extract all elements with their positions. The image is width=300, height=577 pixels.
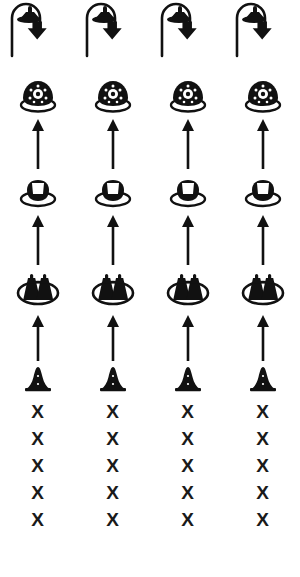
- up-arrow-icon: [255, 315, 271, 361]
- small-cone-icon: [246, 365, 280, 395]
- cell-stage4-col-3[interactable]: [150, 74, 225, 118]
- cell-stage3-col-1[interactable]: [0, 170, 75, 214]
- x-mark-icon: X: [256, 483, 269, 502]
- up-arrow-icon: [105, 315, 121, 361]
- up-arrow-icon: [30, 215, 46, 265]
- x-mark-icon: X: [31, 456, 44, 475]
- up-arrow-icon: [255, 215, 271, 265]
- cell-arrow2-col-3: [150, 214, 225, 266]
- x-mark-icon: X: [106, 429, 119, 448]
- x-mark-icon: X: [31, 510, 44, 529]
- x-mark-column-1: X X X X X: [0, 398, 75, 577]
- cup-on-oval-base-icon: [89, 173, 137, 211]
- cell-arrow2-col-2: [75, 214, 150, 266]
- cell-recycle-col-3[interactable]: [150, 0, 225, 58]
- cell-arrow3-col-3: [150, 118, 225, 170]
- x-mark-icon: X: [181, 429, 194, 448]
- cell-stage1-col-4[interactable]: [225, 362, 300, 398]
- cell-stage3-col-2[interactable]: [75, 170, 150, 214]
- small-cone-icon: [171, 365, 205, 395]
- x-mark-column-3: X X X X X: [150, 398, 225, 577]
- cell-stage2-col-4[interactable]: [225, 266, 300, 314]
- cell-arrow1-col-2: [75, 314, 150, 362]
- x-mark-column-2: X X X X X: [75, 398, 150, 577]
- textured-dome-on-base-icon: [164, 76, 212, 116]
- cell-recycle-col-4[interactable]: [225, 0, 300, 58]
- cell-stage1-col-2[interactable]: [75, 362, 150, 398]
- cell-stage2-col-2[interactable]: [75, 266, 150, 314]
- x-mark-icon: X: [106, 483, 119, 502]
- cup-on-oval-base-icon: [239, 173, 287, 211]
- cell-arrow1-col-1: [0, 314, 75, 362]
- cell-stage2-col-3[interactable]: [150, 266, 225, 314]
- textured-dome-on-base-icon: [239, 76, 287, 116]
- cell-stage2-col-1[interactable]: [0, 266, 75, 314]
- cell-stage3-col-4[interactable]: [225, 170, 300, 214]
- x-mark-icon: X: [256, 402, 269, 421]
- x-mark-icon: X: [31, 402, 44, 421]
- x-mark-icon: X: [106, 402, 119, 421]
- spacer-col-3: [150, 58, 225, 74]
- cell-recycle-col-2[interactable]: [75, 0, 150, 58]
- up-arrow-icon: [180, 119, 196, 169]
- up-arrow-icon: [105, 119, 121, 169]
- x-mark-icon: X: [181, 402, 194, 421]
- cup-on-oval-base-icon: [164, 173, 212, 211]
- x-mark-icon: X: [31, 483, 44, 502]
- cell-arrow2-col-1: [0, 214, 75, 266]
- dome-with-recycle-loop-arrow-icon: [232, 0, 294, 58]
- spacer-col-4: [225, 58, 300, 74]
- dome-with-recycle-loop-arrow-icon: [7, 0, 69, 58]
- x-mark-icon: X: [181, 510, 194, 529]
- cell-recycle-col-1[interactable]: [0, 0, 75, 58]
- cell-arrow1-col-4: [225, 314, 300, 362]
- x-mark-icon: X: [106, 510, 119, 529]
- x-mark-icon: X: [256, 510, 269, 529]
- x-mark-icon: X: [256, 429, 269, 448]
- up-arrow-icon: [30, 315, 46, 361]
- cell-arrow3-col-1: [0, 118, 75, 170]
- dome-with-recycle-loop-arrow-icon: [157, 0, 219, 58]
- cup-on-oval-base-icon: [14, 173, 62, 211]
- cell-arrow2-col-4: [225, 214, 300, 266]
- small-cone-icon: [21, 365, 55, 395]
- x-mark-icon: X: [106, 456, 119, 475]
- up-arrow-icon: [105, 215, 121, 265]
- up-arrow-icon: [255, 119, 271, 169]
- x-mark-icon: X: [181, 483, 194, 502]
- cell-stage4-col-4[interactable]: [225, 74, 300, 118]
- textured-dome-on-base-icon: [14, 76, 62, 116]
- two-figures-in-oval-icon: [85, 269, 141, 311]
- spacer-col-2: [75, 58, 150, 74]
- two-figures-in-oval-icon: [160, 269, 216, 311]
- x-mark-icon: X: [181, 456, 194, 475]
- cell-stage1-col-3[interactable]: [150, 362, 225, 398]
- cell-arrow1-col-3: [150, 314, 225, 362]
- cell-stage4-col-2[interactable]: [75, 74, 150, 118]
- cell-arrow3-col-2: [75, 118, 150, 170]
- up-arrow-icon: [180, 315, 196, 361]
- up-arrow-icon: [30, 119, 46, 169]
- x-mark-icon: X: [256, 456, 269, 475]
- lifecycle-diagram: X X X X X X X X X X X X X X X X X X X X: [0, 0, 300, 577]
- two-figures-in-oval-icon: [235, 269, 291, 311]
- cell-stage1-col-1[interactable]: [0, 362, 75, 398]
- two-figures-in-oval-icon: [10, 269, 66, 311]
- cell-arrow3-col-4: [225, 118, 300, 170]
- dome-with-recycle-loop-arrow-icon: [82, 0, 144, 58]
- textured-dome-on-base-icon: [89, 76, 137, 116]
- up-arrow-icon: [180, 215, 196, 265]
- cell-stage4-col-1[interactable]: [0, 74, 75, 118]
- small-cone-icon: [96, 365, 130, 395]
- cell-stage3-col-3[interactable]: [150, 170, 225, 214]
- spacer-col-1: [0, 58, 75, 74]
- x-mark-icon: X: [31, 429, 44, 448]
- x-mark-column-4: X X X X X: [225, 398, 300, 577]
